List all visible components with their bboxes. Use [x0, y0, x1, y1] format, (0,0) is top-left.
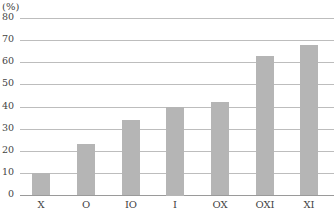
bar	[256, 56, 274, 195]
x-tick-label: I	[155, 199, 195, 210]
y-tick-label: 70	[0, 33, 14, 44]
y-tick-label: 40	[0, 100, 14, 111]
y-tick-label: 50	[0, 77, 14, 88]
x-tick-label: O	[66, 199, 106, 210]
x-tick-label: XI	[289, 199, 329, 210]
bar	[32, 173, 50, 195]
bar	[166, 107, 184, 196]
y-tick-label: 0	[0, 188, 14, 199]
bar	[77, 144, 95, 195]
y-tick-label: 10	[0, 166, 14, 177]
y-tick-label: 30	[0, 122, 14, 133]
gridline	[20, 62, 334, 63]
y-tick-label: 80	[0, 11, 14, 22]
x-tick-label: X	[21, 199, 61, 210]
x-tick-label: IO	[111, 199, 151, 210]
y-tick-label: 60	[0, 55, 14, 66]
gridline	[20, 40, 334, 41]
bar	[122, 120, 140, 195]
bar	[300, 45, 318, 195]
gridline	[20, 18, 334, 19]
x-tick-label: OX	[200, 199, 240, 210]
bar	[211, 102, 229, 195]
y-tick-label: 20	[0, 144, 14, 155]
x-tick-label: OXI	[245, 199, 285, 210]
gridline	[20, 84, 334, 85]
